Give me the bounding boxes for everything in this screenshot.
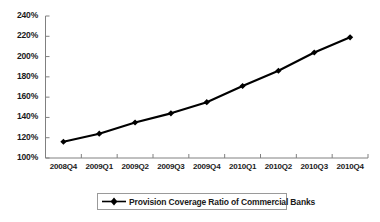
chart-container: 100%120%140%160%180%200%220%240% 2008Q42… <box>0 0 380 222</box>
legend-line-marker-icon <box>101 196 127 207</box>
data-point-markers <box>60 34 353 145</box>
plot-area <box>0 0 380 222</box>
data-point-marker <box>347 34 353 40</box>
data-point-marker <box>96 131 102 137</box>
data-point-marker <box>132 119 138 125</box>
data-point-marker <box>204 99 210 105</box>
legend-entry-label: Provision Coverage Ratio of Commercial B… <box>129 197 315 207</box>
data-point-marker <box>168 110 174 116</box>
series-line <box>63 37 350 141</box>
axis-lines <box>46 16 369 158</box>
data-point-marker <box>239 83 245 89</box>
data-point-marker <box>60 139 66 145</box>
data-series-line <box>63 37 350 141</box>
axis-tick-marks <box>46 16 369 158</box>
chart-legend: Provision Coverage Ratio of Commercial B… <box>97 193 287 210</box>
